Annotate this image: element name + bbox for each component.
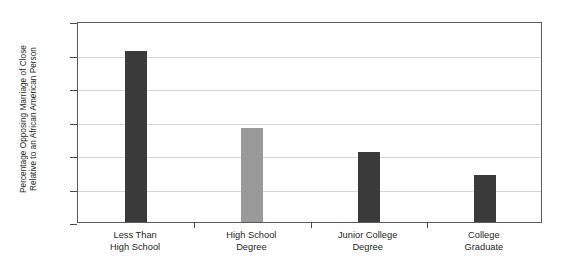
y-axis-tick	[70, 23, 77, 24]
bar-chart-figure: Percentage Opposing Marriage of Close Re…	[0, 0, 565, 276]
plot-area: 0102030405060	[77, 22, 542, 223]
x-axis-category-label-line: Junior College	[310, 230, 426, 242]
x-axis-category-label-line: Degree	[193, 242, 309, 254]
x-axis-tick	[311, 222, 312, 228]
x-axis-category-label: CollegeGraduate	[426, 230, 542, 264]
y-axis-tick	[70, 191, 77, 192]
y-axis-title-line-1: Percentage Opposing Marriage of Close	[19, 45, 28, 193]
y-axis-title: Percentage Opposing Marriage of Close Re…	[14, 8, 48, 230]
x-axis-category-label-line: High School	[193, 230, 309, 242]
y-axis-title-line-2: Relative to an African American Person	[29, 47, 38, 191]
gridline	[78, 124, 541, 125]
x-axis-category-label-line: College	[426, 230, 542, 242]
y-axis-tick	[70, 90, 77, 91]
gridline	[78, 57, 541, 58]
x-axis-tick	[427, 222, 428, 228]
x-axis-category-label-line: High School	[77, 242, 193, 254]
x-axis-category-label-line: Graduate	[426, 242, 542, 254]
x-axis-category-label-line: Less Than	[77, 230, 193, 242]
y-axis-tick	[70, 124, 77, 125]
y-axis-tick	[70, 157, 77, 158]
x-axis-category-labels: Less ThanHigh SchoolHigh SchoolDegreeJun…	[77, 230, 542, 264]
gridline	[78, 90, 541, 91]
x-axis-category-label: Junior CollegeDegree	[310, 230, 426, 264]
bar	[358, 152, 380, 222]
x-axis-category-label: Less ThanHigh School	[77, 230, 193, 264]
x-axis-tick	[194, 222, 195, 228]
bar	[241, 128, 263, 222]
y-axis-tick	[70, 57, 77, 58]
gridline	[78, 157, 541, 158]
y-axis-tick	[70, 224, 77, 225]
gridline	[78, 191, 541, 192]
x-axis-category-label-line: Degree	[310, 242, 426, 254]
x-axis-category-label: High SchoolDegree	[193, 230, 309, 264]
bar	[474, 175, 496, 222]
bar	[125, 51, 147, 222]
